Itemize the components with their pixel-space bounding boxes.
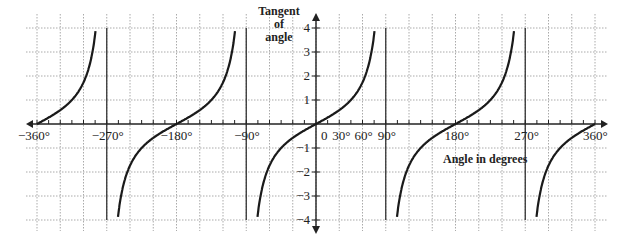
- x-tick-label: 0: [321, 128, 328, 143]
- y-axis-down-arrow-icon: [312, 226, 320, 234]
- x-tick-label: 360°: [583, 128, 608, 143]
- x-tick-label: 60°: [355, 128, 373, 143]
- y-tick-label: 3: [304, 44, 311, 59]
- y-axis-title-line2: of: [274, 17, 285, 31]
- x-tick-label: 180°: [445, 128, 470, 143]
- x-tick-label: 270°: [514, 128, 539, 143]
- y-tick-label: 1: [304, 92, 311, 107]
- y-tick-label: 2: [304, 68, 311, 83]
- tangent-graph: −360°−270°−180°−90°030°60°90°180°270°360…: [0, 0, 628, 237]
- x-tick-label: −270°: [92, 128, 124, 143]
- y-tick-label: 4: [304, 20, 311, 35]
- x-axis-left-arrow-icon: [26, 120, 33, 128]
- x-tick-label: −180°: [161, 128, 193, 143]
- y-tick-label: −4: [296, 212, 310, 227]
- x-axis-right-arrow-icon: [601, 120, 608, 128]
- x-tick-label: −360°: [18, 128, 50, 143]
- y-tick-label: −2: [296, 164, 310, 179]
- x-tick-label: −90°: [234, 128, 260, 143]
- x-axis-title: Angle in degrees: [443, 152, 528, 166]
- y-axis-up-arrow-icon: [312, 13, 320, 21]
- y-axis-title-line1: Tangent: [258, 4, 300, 18]
- x-tick-label: 30°: [332, 128, 350, 143]
- x-tick-label: 90°: [378, 128, 396, 143]
- y-tick-label: −3: [296, 188, 310, 203]
- tangent-branch: [37, 31, 96, 124]
- y-axis-title-line3: angle: [265, 30, 293, 44]
- y-tick-label: −1: [296, 140, 310, 155]
